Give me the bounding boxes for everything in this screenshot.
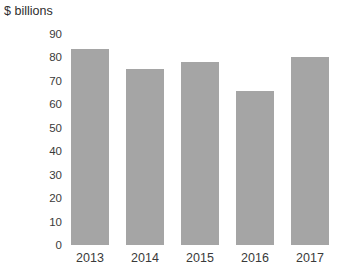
bar-2017[interactable]: [291, 57, 329, 245]
bar-2015[interactable]: [181, 62, 219, 245]
x-axis: 20132014201520162017: [0, 250, 345, 279]
x-axis-tick-label: 2016: [230, 250, 280, 266]
x-axis-tick-label: 2013: [65, 250, 115, 266]
bars-layer: [0, 0, 345, 279]
bar-2013[interactable]: [71, 49, 109, 245]
bar-2014[interactable]: [126, 69, 164, 245]
plot-area: 9080706050403020100 20132014201520162017: [0, 0, 345, 279]
x-axis-tick-label: 2015: [175, 250, 225, 266]
x-axis-tick-label: 2017: [285, 250, 335, 266]
x-axis-tick-label: 2014: [120, 250, 170, 266]
bar-2016[interactable]: [236, 91, 274, 245]
bar-chart: $ billions 9080706050403020100 201320142…: [0, 0, 345, 279]
